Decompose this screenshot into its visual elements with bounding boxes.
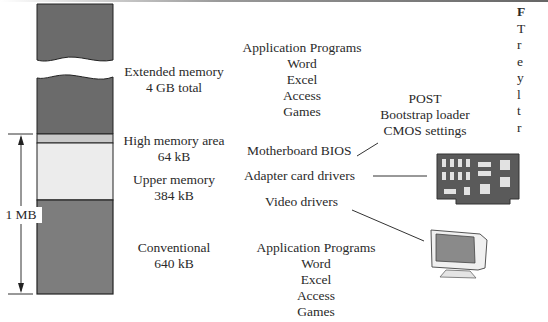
extended-apps-title: Application Programs [226,40,378,56]
extended-memory-block-bottom [37,75,113,134]
extended-memory-name: Extended memory [118,64,230,80]
conventional-app-item: Games [240,304,392,320]
conventional-memory-block [37,200,113,294]
extended-memory-block-top [37,4,113,61]
bios-item-cmos: CMOS settings [370,123,480,139]
upper-memory-size: 384 kB [118,188,230,204]
bios-item-bootstrap: Bootstrap loader [370,107,480,123]
adapter-card-icon [437,154,519,204]
upper-memory-name: Upper memory [118,172,230,188]
bios-item-post: POST [370,91,480,107]
conventional-app-item: Word [240,256,392,272]
extended-apps-list: Application Programs Word Excel Access G… [226,40,378,120]
conventional-app-item: Access [240,288,392,304]
extended-app-item: Excel [226,72,378,88]
extended-memory-label: Extended memory 4 GB total [118,64,230,96]
video-leader-line [352,210,424,241]
margin-text-line: r [517,37,525,54]
margin-text-line: F [517,4,525,21]
margin-text-line: t [517,103,525,120]
hma-size: 64 kB [114,149,234,165]
hma-label: High memory area 64 kB [114,133,234,165]
conventional-size: 640 kB [118,256,230,272]
conventional-app-item: Excel [240,272,392,288]
bios-contents-list: POST Bootstrap loader CMOS settings [370,91,480,139]
margin-text-line: y [517,70,525,87]
margin-text-line: l [517,87,525,104]
one-mb-label: 1 MB [0,207,42,223]
video-drivers-label: Video drivers [265,194,338,210]
arrow-up-icon [18,135,24,145]
extended-memory-size: 4 GB total [118,80,230,96]
extended-app-item: Games [226,104,378,120]
motherboard-bios-label: Motherboard BIOS [247,143,352,159]
monitor-icon [431,230,487,278]
extended-app-item: Access [226,88,378,104]
arrow-down-icon [18,283,24,293]
bios-leader-line [357,143,378,156]
adapter-drivers-label: Adapter card drivers [244,168,355,184]
margin-text-line: e [517,54,525,71]
conventional-name: Conventional [118,240,230,256]
conventional-label: Conventional 640 kB [118,240,230,272]
conventional-apps-title: Application Programs [240,240,392,256]
margin-text-line: r [517,120,525,137]
high-memory-area-block [37,134,113,143]
margin-text-column: F T r e y l t r [517,4,525,136]
conventional-apps-list: Application Programs Word Excel Access G… [240,240,392,320]
extended-app-item: Word [226,56,378,72]
upper-memory-label: Upper memory 384 kB [118,172,230,204]
hma-name: High memory area [114,133,234,149]
margin-text-line: T [517,21,525,38]
upper-memory-block [37,143,113,200]
